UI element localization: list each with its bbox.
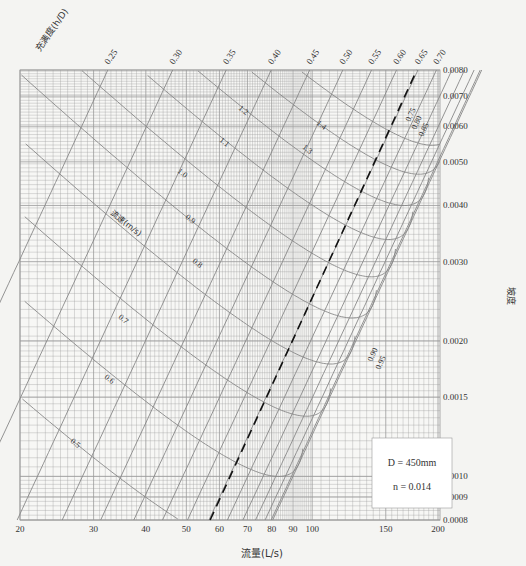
svg-text:40: 40 — [141, 524, 151, 534]
svg-text:0.0080: 0.0080 — [443, 65, 468, 75]
svg-text:150: 150 — [379, 524, 393, 534]
svg-text:50: 50 — [182, 524, 192, 534]
roughness-label: n = 0.014 — [393, 481, 431, 492]
svg-text:0.0060: 0.0060 — [443, 121, 468, 131]
svg-text:充满度(h/D): 充满度(h/D) — [33, 6, 71, 53]
svg-text:0.0020: 0.0020 — [443, 336, 468, 346]
svg-text:200: 200 — [431, 524, 445, 534]
diameter-label: D = 450mm — [388, 457, 437, 468]
hydraulic-nomograph: 20304050607080901001502000.00800.00700.0… — [0, 0, 526, 566]
svg-text:30: 30 — [89, 524, 99, 534]
svg-text:0.25: 0.25 — [102, 47, 120, 66]
y-axis-title: 坡度 — [506, 287, 517, 305]
svg-text:0.35: 0.35 — [221, 47, 239, 66]
svg-text:0.0050: 0.0050 — [443, 157, 468, 167]
svg-text:60: 60 — [215, 524, 225, 534]
svg-text:0.60: 0.60 — [391, 47, 409, 66]
svg-text:0.0008: 0.0008 — [443, 515, 468, 525]
svg-text:0.55: 0.55 — [366, 47, 384, 66]
svg-text:80: 80 — [267, 524, 277, 534]
svg-text:70: 70 — [243, 524, 253, 534]
svg-text:0.0015: 0.0015 — [443, 392, 468, 402]
svg-text:90: 90 — [289, 524, 299, 534]
svg-text:0.45: 0.45 — [304, 47, 322, 66]
svg-text:0.0040: 0.0040 — [443, 200, 468, 210]
parameter-box: D = 450mm n = 0.014 — [372, 438, 452, 508]
svg-text:0.65: 0.65 — [412, 47, 430, 66]
x-axis-title: 流量(L/s) — [241, 547, 283, 559]
svg-text:0.0070: 0.0070 — [443, 91, 468, 101]
svg-text:0.0030: 0.0030 — [443, 257, 468, 267]
svg-text:0.50: 0.50 — [337, 47, 355, 66]
svg-text:100: 100 — [305, 524, 319, 534]
svg-text:0.70: 0.70 — [431, 47, 449, 66]
svg-text:0.30: 0.30 — [167, 47, 185, 66]
svg-text:0.40: 0.40 — [266, 47, 284, 66]
svg-text:20: 20 — [16, 524, 26, 534]
